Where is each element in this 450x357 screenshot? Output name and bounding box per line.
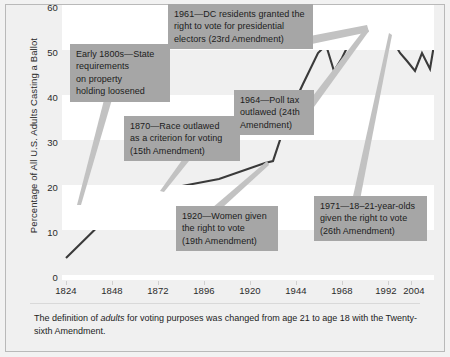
callout-early-1800s-line-3: holding loosened <box>76 85 164 97</box>
callout-early-1800s-line-2: on property <box>76 73 164 85</box>
y-axis-tick-labels: 60 50 40 30 20 10 0 <box>26 8 58 278</box>
x-axis-tick-labels: 1824 1848 1872 1896 1920 1944 1968 1992 … <box>62 281 442 297</box>
callout-1961-dc: 1961—DC residents granted the right to v… <box>168 4 313 49</box>
figure-root: Percentage of All U.S. Adults Casting a … <box>0 0 450 357</box>
y-tick-label-30: 30 <box>32 137 58 148</box>
y-tick-label-10: 10 <box>32 227 58 238</box>
footnote: The definition of adults for voting purp… <box>34 312 424 338</box>
callout-1971-26th: 1971—18–21-year-olds given the right to … <box>314 196 427 241</box>
y-tick-label-50: 50 <box>32 47 58 58</box>
y-tick-label-40: 40 <box>32 92 58 103</box>
x-tick-label-1968: 1968 <box>322 285 362 296</box>
x-tick-label-2004: 2004 <box>394 285 434 296</box>
leader-1870-race <box>160 156 193 192</box>
leader-early-1800s <box>77 96 113 205</box>
callout-1964-poll-tax-line-2: Amendment) <box>240 119 308 131</box>
callout-1920-women-line-1: the right to vote <box>182 222 272 234</box>
callout-1870-race-line-1: as a criterion for voting <box>130 132 234 144</box>
callout-early-1800s-line-0: Early 1800s—State <box>76 48 164 60</box>
plot-area: Early 1800s—State requirements on proper… <box>62 8 434 278</box>
x-tick-label-1944: 1944 <box>276 285 316 296</box>
footnote-part-before: The definition of <box>34 313 101 323</box>
y-tick-label-0: 0 <box>32 272 58 283</box>
callout-1920-women-line-2: (19th Amendment) <box>182 235 272 247</box>
callout-1870-race: 1870—Race outlawed as a criterion for vo… <box>124 116 240 161</box>
y-tick-label-20: 20 <box>32 182 58 193</box>
callout-early-1800s: Early 1800s—State requirements on proper… <box>70 44 170 102</box>
x-tick-label-1896: 1896 <box>184 285 224 296</box>
x-tick-label-1872: 1872 <box>138 285 178 296</box>
callout-1920-women: 1920—Women given the right to vote (19th… <box>176 206 278 251</box>
callout-1870-race-line-0: 1870—Race outlawed <box>130 120 234 132</box>
callout-1964-poll-tax-line-1: outlawed (24th <box>240 106 308 118</box>
x-tick-label-1824: 1824 <box>46 285 86 296</box>
leader-1971-26th <box>350 33 392 210</box>
callout-1971-26th-line-1: given the right to vote <box>320 212 421 224</box>
x-tick-label-1920: 1920 <box>230 285 270 296</box>
leader-1920-women <box>212 161 269 208</box>
y-tick-label-60: 60 <box>32 2 58 13</box>
callout-1964-poll-tax-line-0: 1964—Poll tax <box>240 94 308 106</box>
callout-1961-dc-line-2: electors (23rd Amendment) <box>174 33 307 45</box>
callout-1971-26th-line-2: (26th Amendment) <box>320 225 421 237</box>
callout-1961-dc-line-0: 1961—DC residents granted the <box>174 8 307 20</box>
callout-1870-race-line-2: (15th Amendment) <box>130 145 234 157</box>
callout-1971-26th-line-0: 1971—18–21-year-olds <box>320 200 421 212</box>
footnote-divider <box>30 303 420 304</box>
footnote-italic-term: adults <box>101 313 125 323</box>
x-tick-label-1848: 1848 <box>92 285 132 296</box>
callout-early-1800s-line-1: requirements <box>76 60 164 72</box>
callout-1964-poll-tax: 1964—Poll tax outlawed (24th Amendment) <box>234 90 314 135</box>
callout-1961-dc-line-1: right to vote for presidential <box>174 20 307 32</box>
callout-1920-women-line-0: 1920—Women given <box>182 210 272 222</box>
